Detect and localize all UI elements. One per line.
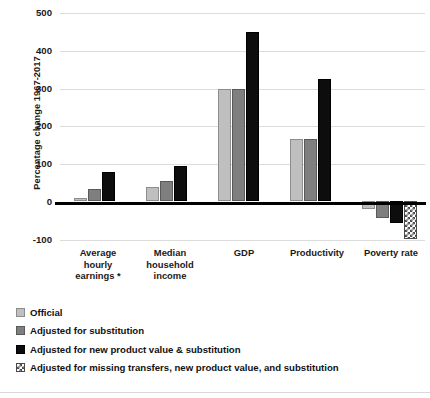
bar-productivity-substitution — [304, 139, 317, 201]
bar-group-productivity — [284, 8, 344, 245]
y-tick-400: 400 — [0, 45, 52, 56]
y-tick-200: 200 — [0, 120, 52, 131]
x-label-median-household-income: Median household income — [132, 247, 208, 282]
bar-poverty-missing-transfers — [404, 201, 417, 239]
y-tick-300: 300 — [0, 83, 52, 94]
x-axis-labels: Average hourly earnings * Median househo… — [60, 247, 425, 293]
bar-productivity-official — [290, 139, 303, 201]
bar-gdp-official — [218, 89, 231, 201]
y-tick-neg100: -100 — [0, 234, 52, 245]
x-label-line: GDP — [208, 247, 280, 259]
legend-label: Adjusted for new product value & substit… — [30, 344, 241, 355]
x-label-line: Productivity — [278, 247, 356, 259]
bar-productivity-new-product-value — [318, 79, 331, 201]
hatched-swatch-icon — [16, 363, 25, 372]
legend-label: Adjusted for missing transfers, new prod… — [30, 362, 339, 373]
bottom-divider — [0, 392, 430, 393]
x-label-line: Median — [132, 247, 208, 259]
x-label-line: Average — [60, 247, 136, 259]
legend-item-substitution: Adjusted for substitution — [16, 322, 426, 341]
bar-gdp-substitution — [232, 89, 245, 201]
light-gray-swatch-icon — [16, 308, 25, 317]
x-label-gdp: GDP — [208, 247, 280, 259]
bar-avg-earnings-new-product-value — [102, 172, 115, 201]
bar-group-gdp — [212, 8, 272, 245]
bar-gdp-new-product-value — [246, 32, 259, 201]
mid-gray-swatch-icon — [16, 326, 25, 335]
legend-item-missing-transfers: Adjusted for missing transfers, new prod… — [16, 359, 426, 378]
plot-area — [60, 8, 425, 245]
legend-label: Adjusted for substitution — [30, 325, 144, 336]
bar-group-average-hourly-earnings — [68, 8, 128, 245]
legend-label: Official — [30, 307, 63, 318]
y-tick-500: 500 — [0, 7, 52, 18]
bar-median-income-official — [146, 187, 159, 201]
legend-item-new-product-value: Adjusted for new product value & substit… — [16, 340, 426, 359]
x-label-poverty-rate: Poverty rate — [355, 247, 427, 259]
legend-item-official: Official — [16, 303, 426, 322]
x-label-average-hourly-earnings: Average hourly earnings * — [60, 247, 136, 282]
x-label-line: household — [132, 259, 208, 271]
black-swatch-icon — [16, 345, 25, 354]
x-label-line: Poverty rate — [355, 247, 427, 259]
y-tick-100: 100 — [0, 158, 52, 169]
x-label-line: income — [132, 270, 208, 282]
y-tick-0: 0 — [0, 196, 52, 207]
bar-median-income-new-product-value — [174, 166, 187, 202]
bar-group-poverty-rate — [356, 8, 426, 245]
x-label-line: hourly — [60, 259, 136, 271]
chart-legend: Official Adjusted for substitution Adjus… — [16, 303, 426, 377]
zero-axis-line — [55, 202, 426, 205]
x-label-line: earnings * — [60, 270, 136, 282]
x-label-productivity: Productivity — [278, 247, 356, 259]
bar-avg-earnings-substitution — [88, 189, 101, 202]
bar-chart: Percentage change 1967-2017 500 400 300 … — [0, 0, 430, 398]
bar-median-income-substitution — [160, 181, 173, 201]
bar-avg-earnings-official — [74, 198, 87, 201]
bar-group-median-household-income — [140, 8, 200, 245]
